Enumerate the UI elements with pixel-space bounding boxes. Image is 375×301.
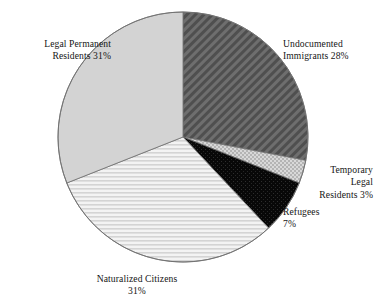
pie-label-temporary-legal-residents: Temporary Legal Residents 3% xyxy=(281,164,373,201)
pie-label-naturalized-citizens: Naturalized Citizens 31% xyxy=(64,273,210,298)
pie-slice-undocumented-immigrants[interactable] xyxy=(183,12,308,160)
pie-label-refugees: Refugees 7% xyxy=(283,206,363,231)
pie-label-legal-permanent-residents: Legal Permanent Residents 31% xyxy=(3,38,111,63)
pie-label-undocumented-immigrants: Undocumented Immigrants 28% xyxy=(283,38,375,63)
pie-chart: Legal Permanent Residents 31% Undocument… xyxy=(0,0,375,301)
